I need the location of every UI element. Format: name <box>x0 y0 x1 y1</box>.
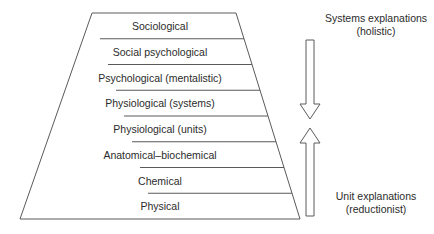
systems-explanations-line1: Systems explanations <box>325 12 427 24</box>
arrow-up-icon <box>300 128 320 216</box>
arrow-down-icon <box>300 40 320 119</box>
systems-explanations-note: Systems explanations (holistic) <box>318 12 434 38</box>
unit-explanations-note: Unit explanations (reductionist) <box>318 190 434 216</box>
unit-explanations-line1: Unit explanations <box>336 190 417 202</box>
unit-explanations-line2: (reductionist) <box>318 203 434 216</box>
systems-explanations-line2: (holistic) <box>318 25 434 38</box>
levels-of-explanation-figure: Sociological Social psychological Psycho… <box>0 0 434 234</box>
